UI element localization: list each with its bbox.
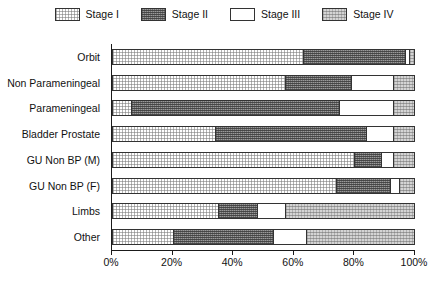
stage-3-swatch-icon: [230, 8, 255, 21]
x-axis-tick: [293, 250, 294, 255]
legend-item-stage-2: Stage II: [141, 8, 208, 21]
bar-segment-stage-2[interactable]: [173, 230, 272, 244]
bar-segment-stage-2[interactable]: [303, 50, 405, 64]
bar-segment-stage-4[interactable]: [409, 50, 414, 64]
y-axis-label: Orbit: [0, 44, 105, 70]
stage-4-swatch-icon: [322, 8, 347, 21]
bar-segment-stage-3[interactable]: [339, 101, 393, 115]
x-axis-tick: [353, 250, 354, 255]
bar-segment-stage-4[interactable]: [306, 230, 414, 244]
bar-segment-stage-1[interactable]: [113, 50, 303, 64]
bar-segment-stage-1[interactable]: [113, 230, 173, 244]
bar-row: [112, 96, 415, 122]
bar-segment-stage-4[interactable]: [399, 179, 414, 193]
bar-segment-stage-3[interactable]: [351, 76, 393, 90]
legend-label-stage-4: Stage IV: [353, 9, 393, 20]
bar-segment-stage-4[interactable]: [393, 76, 414, 90]
bar-segment-stage-2[interactable]: [215, 127, 366, 141]
x-axis-tick: [414, 250, 415, 255]
x-axis-tick-label: 100%: [401, 256, 428, 268]
stacked-bar[interactable]: [112, 229, 415, 245]
y-axis-label: GU Non BP (F): [0, 173, 105, 199]
bar-segment-stage-2[interactable]: [131, 101, 339, 115]
x-axis-tick-label: 80%: [343, 256, 364, 268]
bar-segment-stage-1[interactable]: [113, 153, 354, 167]
bar-segment-stage-3[interactable]: [257, 204, 284, 218]
x-axis-tick: [172, 250, 173, 255]
y-axis-category-labels: OrbitNon ParameningealParameningealBladd…: [0, 44, 105, 250]
stacked-bar[interactable]: [112, 75, 415, 91]
x-axis-tick-label: 60%: [282, 256, 303, 268]
bar-segment-stage-3[interactable]: [390, 179, 399, 193]
stage-1-swatch-icon: [55, 8, 80, 21]
bar-segment-stage-2[interactable]: [354, 153, 381, 167]
y-axis-label: Limbs: [0, 199, 105, 225]
x-axis-tick-label: 0%: [103, 256, 118, 268]
y-axis-label: Non Parameningeal: [0, 70, 105, 96]
legend-label-stage-3: Stage III: [261, 9, 300, 20]
bar-segment-stage-3[interactable]: [366, 127, 393, 141]
bar-segment-stage-4[interactable]: [393, 127, 414, 141]
bar-row: [112, 173, 415, 199]
y-axis-label: Other: [0, 224, 105, 250]
legend-item-stage-1: Stage I: [55, 8, 119, 21]
bar-row: [112, 44, 415, 70]
bar-segment-stage-1[interactable]: [113, 204, 218, 218]
x-axis-tick: [232, 250, 233, 255]
x-axis-tick-label: 20%: [161, 256, 182, 268]
stacked-bar[interactable]: [112, 178, 415, 194]
bar-segment-stage-4[interactable]: [285, 204, 414, 218]
legend-item-stage-3: Stage III: [230, 8, 300, 21]
bar-row: [112, 147, 415, 173]
bar-segment-stage-2[interactable]: [285, 76, 351, 90]
bar-segment-stage-1[interactable]: [113, 101, 131, 115]
bar-segment-stage-1[interactable]: [113, 127, 215, 141]
bar-row: [112, 70, 415, 96]
bar-row: [112, 224, 415, 250]
stage-2-swatch-icon: [141, 8, 166, 21]
legend-label-stage-2: Stage II: [172, 9, 208, 20]
y-axis-label: Bladder Prostate: [0, 121, 105, 147]
bar-segment-stage-2[interactable]: [218, 204, 257, 218]
bar-segment-stage-4[interactable]: [393, 153, 414, 167]
bar-segment-stage-4[interactable]: [393, 101, 414, 115]
stacked-bar[interactable]: [112, 126, 415, 142]
stacked-bar[interactable]: [112, 100, 415, 116]
chart-legend: Stage I Stage II Stage III Stage IV: [0, 8, 448, 21]
legend-label-stage-1: Stage I: [86, 9, 119, 20]
x-axis-tick: [111, 250, 112, 255]
stacked-bar[interactable]: [112, 49, 415, 65]
bar-segment-stage-2[interactable]: [336, 179, 390, 193]
legend-item-stage-4: Stage IV: [322, 8, 393, 21]
bar-segment-stage-1[interactable]: [113, 76, 285, 90]
plot-area: [111, 44, 415, 251]
bar-row: [112, 121, 415, 147]
y-axis-label: GU Non BP (M): [0, 147, 105, 173]
stacked-bars-container: [112, 44, 415, 250]
bar-segment-stage-3[interactable]: [273, 230, 306, 244]
x-axis-tick-labels: 0%20%40%60%80%100%: [0, 256, 448, 272]
stacked-bar[interactable]: [112, 203, 415, 219]
stacked-bar[interactable]: [112, 152, 415, 168]
chart-plot-wrapper: OrbitNon ParameningealParameningealBladd…: [0, 36, 448, 276]
bar-segment-stage-1[interactable]: [113, 179, 336, 193]
y-axis-label: Parameningeal: [0, 96, 105, 122]
bar-row: [112, 199, 415, 225]
x-axis-tick-label: 40%: [222, 256, 243, 268]
bar-segment-stage-3[interactable]: [381, 153, 393, 167]
